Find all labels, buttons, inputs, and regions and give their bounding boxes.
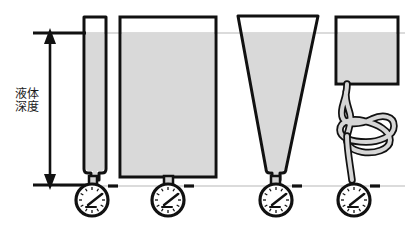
vessel-1-liquid — [86, 33, 104, 177]
vessel-3-inverted-cone — [238, 16, 318, 187]
vessel-4-hose — [340, 84, 394, 180]
pressure-gauge-1[interactable] — [76, 184, 108, 216]
pressure-gauge-2[interactable] — [152, 184, 184, 216]
liquid-depth-label: 液体 深度 — [10, 88, 44, 114]
vessel-1-narrow-tube — [84, 17, 106, 186]
liquid-depth-label-line2: 深度 — [10, 101, 44, 114]
vessel-4-box-with-hose — [336, 17, 398, 180]
figure-canvas: 液体 深度 — [0, 0, 413, 235]
pressure-gauge-3[interactable] — [260, 184, 292, 216]
pressure-gauge-4[interactable] — [338, 184, 370, 216]
vessel-3-liquid — [242, 33, 315, 177]
hydrostatic-pressure-diagram — [0, 0, 413, 235]
vessel-4-liquid — [338, 33, 396, 82]
vessel-2-liquid — [122, 33, 214, 176]
depth-arrow-head-down — [44, 174, 56, 190]
depth-arrow-head-up — [44, 28, 56, 44]
vessel-2-wide-rectangle — [120, 17, 216, 187]
